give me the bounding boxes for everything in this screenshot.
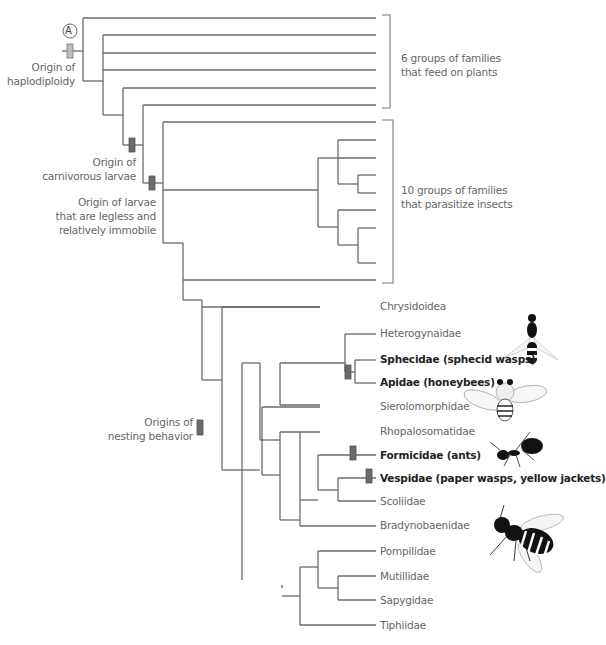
nesting-marker-apoid [345,365,351,379]
taxon-chrysidoidea: Chrysidoidea [380,300,446,313]
parasite-groups-bracket [382,120,393,283]
taxon-vespidae: Vespidae (paper wasps, yellow jackets) [380,472,606,485]
taxon-sapygidae: Sapygidae [380,594,433,607]
nesting-marker-ants [350,446,356,460]
plant-groups-bracket [382,15,390,108]
nesting-legend-marker [197,420,203,435]
plant-groups-label: 6 groups of families that feed on plants [401,51,501,79]
group-brackets [382,15,393,283]
tree-branches-lower [222,407,376,625]
taxon-mutillidae: Mutillidae [380,570,429,583]
taxon-scoliidae: Scoliidae [380,495,425,508]
yellow-jacket-illustration [490,505,565,576]
parasite-groups-label: 10 groups of families that parasitize in… [401,183,513,211]
nesting-legend: Origins of nesting behavior [90,415,193,443]
legless-marker [149,176,155,190]
nesting-marker-vespid [366,469,372,483]
taxon-pompilidae: Pompilidae [380,545,436,558]
taxon-sphecidae: Sphecidae (sphecid wasps) [380,353,536,366]
taxon-rhopalosomatidae: Rhopalosomatidae [380,425,475,438]
legless-annotation: Origin of larvae that are legless and re… [40,195,156,237]
taxon-formicidae: Formicidae (ants) [380,449,481,462]
tree-branches [62,18,376,580]
taxon-sierolomorphidae: Sierolomorphidae [380,400,469,413]
taxon-tiphiidae: Tiphiidae [380,619,426,632]
carnivorous-marker [129,138,135,152]
carnivorous-annotation: Origin of carnivorous larvae [40,155,136,183]
callout-letter: A [65,24,72,37]
ant-illustration [490,432,543,467]
haplodiploidy-marker [67,44,73,58]
haplodiploidy-annotation: Origin of haplodiploidy [0,60,75,88]
taxon-apidae: Apidae (honeybees) [380,376,495,389]
taxon-heterogynaidae: Heterogynaidae [380,327,461,340]
taxon-bradynobaenidae: Bradynobaenidae [380,519,470,532]
